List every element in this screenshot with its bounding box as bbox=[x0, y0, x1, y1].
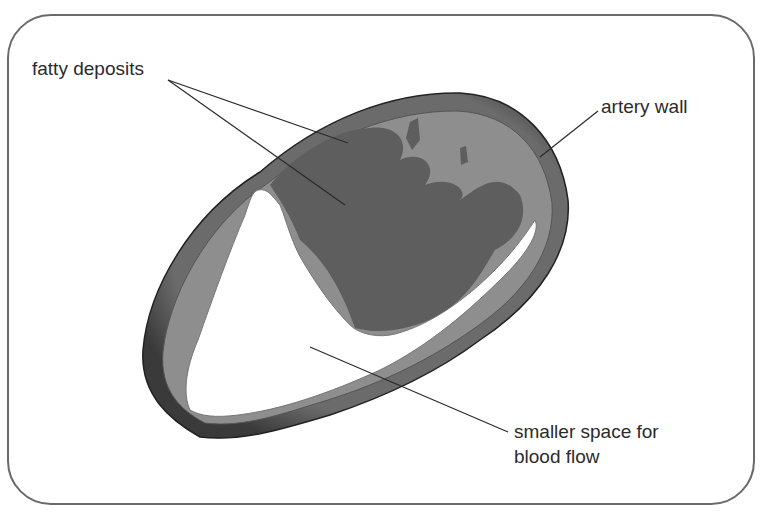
label-blood-flow-line2: blood flow bbox=[514, 444, 659, 469]
label-fatty-deposits: fatty deposits bbox=[32, 56, 144, 81]
label-blood-flow-space: smaller space for blood flow bbox=[514, 419, 659, 469]
leader-line-fatty-1 bbox=[168, 80, 348, 143]
diagram-canvas: fatty deposits artery wall smaller space… bbox=[0, 0, 767, 517]
leader-line-wall bbox=[540, 111, 598, 157]
label-artery-wall: artery wall bbox=[601, 94, 688, 119]
label-blood-flow-line1: smaller space for bbox=[514, 419, 659, 444]
